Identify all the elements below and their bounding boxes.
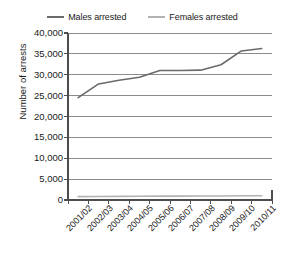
legend-entry[interactable]: Females arrested bbox=[148, 12, 237, 22]
chart-legend: Males arrestedFemales arrested bbox=[0, 9, 285, 25]
plot-svg bbox=[68, 33, 272, 200]
plot-area bbox=[68, 33, 272, 200]
y-axis-tick-label: 0 bbox=[3, 195, 63, 205]
y-axis-tick-label: 30,000 bbox=[3, 70, 63, 80]
legend-entry[interactable]: Males arrested bbox=[47, 12, 126, 22]
y-axis-tick-labels: 05,00010,00015,00020,00025,00030,00035,0… bbox=[0, 33, 63, 200]
legend-label: Females arrested bbox=[169, 12, 237, 22]
line-chart: Males arrestedFemales arrested Number of… bbox=[0, 0, 285, 254]
y-axis-tick-label: 20,000 bbox=[3, 112, 63, 122]
series-line bbox=[78, 196, 262, 197]
series-line bbox=[78, 48, 262, 97]
y-axis-tick-label: 35,000 bbox=[3, 49, 63, 59]
y-axis-tick-label: 5,000 bbox=[3, 174, 63, 184]
y-axis-tick-label: 15,000 bbox=[3, 132, 63, 142]
y-axis-tick-label: 40,000 bbox=[3, 28, 63, 38]
y-axis-tick-label: 25,000 bbox=[3, 91, 63, 101]
legend-line-swatch bbox=[47, 16, 64, 18]
y-axis-tick-label: 10,000 bbox=[3, 153, 63, 163]
legend-line-swatch bbox=[148, 16, 165, 18]
x-axis-tick-labels: 2001/022002/032003/042004/052005/062006/… bbox=[68, 203, 272, 253]
legend-label: Males arrested bbox=[68, 12, 126, 22]
